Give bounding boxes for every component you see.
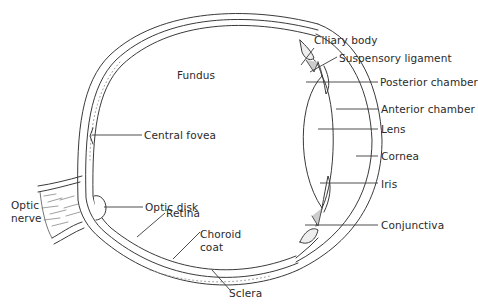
label-fundus: Fundus bbox=[177, 69, 215, 81]
label-cornea: Cornea bbox=[381, 150, 419, 162]
label-ciliary-body: Ciliary body bbox=[314, 34, 378, 46]
leader-sclera bbox=[212, 270, 230, 290]
leader-choroid bbox=[173, 232, 200, 259]
label-anterior-chamber: Anterior chamber bbox=[381, 103, 475, 115]
label-lens: Lens bbox=[381, 123, 406, 135]
leader-retina bbox=[137, 213, 165, 237]
label-conjunctiva: Conjunctiva bbox=[381, 219, 444, 231]
label-central-fovea: Central fovea bbox=[144, 129, 216, 141]
sclera-outline bbox=[78, 13, 318, 285]
label-sclera: Sclera bbox=[229, 287, 262, 299]
lens bbox=[303, 76, 333, 208]
label-iris: Iris bbox=[381, 178, 397, 190]
label-optic-nerve: Optic nerve bbox=[11, 199, 42, 225]
optic-nerve-sheath bbox=[38, 182, 80, 192]
label-retina: Retina bbox=[166, 207, 200, 219]
label-suspensory-ligament: Suspensory ligament bbox=[339, 52, 452, 64]
cornea-inner bbox=[296, 34, 372, 262]
optic-disk bbox=[94, 196, 106, 220]
label-choroid-coat: Choroid coat bbox=[200, 228, 241, 254]
label-posterior-chamber: Posterior chamber bbox=[380, 76, 478, 88]
